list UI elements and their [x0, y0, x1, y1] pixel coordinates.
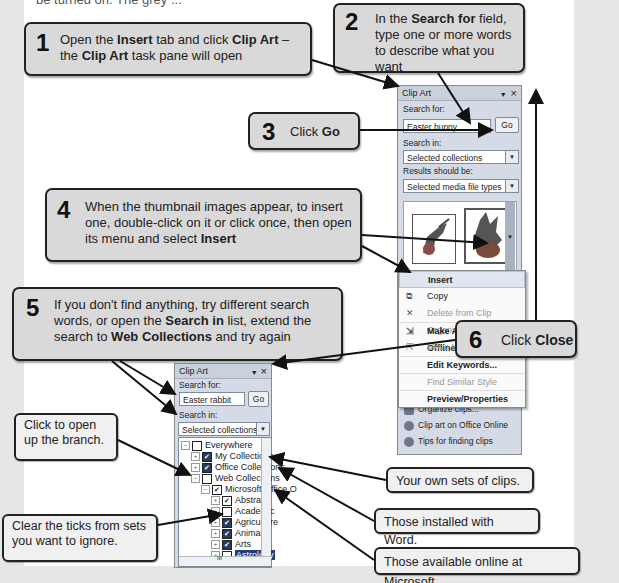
pane-menu-icon[interactable]: ▼	[500, 91, 507, 98]
checkbox[interactable]	[222, 540, 232, 550]
tree-horizontal-scrollbar[interactable]: III	[179, 556, 271, 566]
step-text: Click Go	[290, 124, 360, 140]
checkbox[interactable]	[192, 441, 202, 451]
tree-item-everywhere[interactable]: −Everywhere	[181, 440, 253, 451]
chevron-down-icon[interactable]: ▼	[505, 180, 518, 192]
collapse-icon[interactable]: −	[201, 485, 210, 494]
clip-art-pane-search-in: Clip Art ▼× Search for: Easter rabbit Go…	[174, 363, 272, 568]
go-button[interactable]: Go	[248, 391, 269, 407]
collapse-icon[interactable]: −	[191, 474, 200, 483]
menu-item-preview[interactable]: Preview/Properties	[399, 390, 525, 407]
expand-icon[interactable]: +	[211, 529, 220, 538]
note-online: Those available online at Microsoft.	[374, 547, 580, 575]
tree-vertical-scrollbar[interactable]	[261, 438, 271, 556]
step-4-callout: 4 When the thumbnail images appear, to i…	[45, 188, 362, 262]
offline-icon: ⇲	[406, 323, 414, 340]
search-input[interactable]: Easter bunny	[403, 119, 491, 133]
step-text: If you don't find anything, try differen…	[54, 297, 339, 345]
delete-icon: ✕	[406, 305, 414, 322]
chevron-down-icon[interactable]: ▼	[505, 151, 518, 163]
search-in-label: Search in:	[179, 410, 217, 420]
checkbox[interactable]	[212, 485, 222, 495]
clip-art-online-link[interactable]: Clip art on Office Online	[404, 420, 508, 431]
expand-icon[interactable]: +	[191, 452, 200, 461]
step-text: In the Search for field, type one or mor…	[375, 11, 525, 75]
results-label: Results should be:	[403, 166, 473, 176]
tree-item-arts[interactable]: +Arts	[211, 539, 251, 550]
expand-icon[interactable]: +	[211, 540, 220, 549]
results-select[interactable]: Selected media file types▼	[403, 179, 519, 193]
expand-icon[interactable]: +	[211, 496, 220, 505]
expand-icon[interactable]: +	[191, 463, 200, 472]
expand-icon[interactable]: +	[211, 518, 220, 527]
checkbox[interactable]	[222, 529, 232, 539]
note-open-branch: Click to open up the branch.	[14, 413, 118, 461]
search-in-select[interactable]: Selected collections▼	[178, 422, 270, 436]
checkbox[interactable]	[222, 496, 232, 506]
step-text: Open the Insert tab and click Clip Art –…	[60, 32, 300, 64]
thumbnail-bunny-1[interactable]	[412, 214, 456, 264]
expand-icon[interactable]: +	[211, 507, 220, 516]
collections-tree: −Everywhere +My Collections +Office Coll…	[178, 437, 272, 567]
search-input[interactable]: Easter rabbit	[179, 392, 245, 406]
step-1-callout: 1 Open the Insert tab and click Clip Art…	[24, 22, 312, 76]
step-number: 6	[469, 328, 482, 352]
close-icon[interactable]: ×	[261, 365, 267, 377]
search-for-label: Search for:	[179, 380, 221, 390]
note-own-sets: Your own sets of clips.	[386, 467, 534, 493]
menu-item-insert[interactable]: Insert	[399, 271, 525, 288]
tree-item-microsoft-office-online[interactable]: −Microsoft Office O	[201, 484, 297, 495]
note-clear-ticks: Clear the ticks from sets you want to ig…	[2, 514, 158, 562]
step-text: Click Close	[501, 332, 576, 348]
step-5-callout: 5 If you don't find anything, try differ…	[12, 287, 343, 361]
pane-menu-icon[interactable]: ▼	[251, 369, 258, 376]
step-number: 3	[262, 120, 275, 144]
checkbox[interactable]	[202, 452, 212, 462]
step-number: 5	[26, 296, 39, 320]
checkbox[interactable]	[222, 507, 232, 517]
bunny-clipart-icon	[413, 215, 455, 263]
tree-item-animals[interactable]: +Animals	[211, 528, 267, 539]
checkbox[interactable]	[222, 518, 232, 528]
collapse-icon[interactable]: −	[181, 441, 190, 450]
menu-item-find-similar[interactable]: Find Similar Style	[399, 373, 525, 390]
search-in-select[interactable]: Selected collections▼	[403, 150, 519, 164]
step-number: 1	[36, 31, 49, 55]
step-6-callout: 6 Click Close	[455, 320, 577, 358]
step-number: 2	[345, 10, 358, 34]
menu-item-edit-keywords[interactable]: Edit Keywords...	[399, 356, 525, 373]
thumbnail-menu-button[interactable]: ▼	[505, 202, 515, 277]
step-number: 4	[57, 198, 70, 222]
copy-icon: ⧉	[406, 288, 412, 305]
cut-off-intro-text: be turned on. The grey ...	[36, 0, 182, 7]
search-in-label: Search in:	[403, 138, 441, 148]
step-3-callout: 3 Click Go	[248, 112, 360, 150]
globe-icon	[404, 421, 414, 431]
tree-item-abstract[interactable]: +Abstract	[211, 495, 268, 506]
checkbox[interactable]	[202, 474, 212, 484]
close-icon[interactable]: ×	[511, 87, 517, 99]
menu-item-copy[interactable]: ⧉Copy	[399, 288, 525, 305]
step-text: When the thumbnail images appear, to ins…	[85, 199, 357, 247]
bunny-clipart-icon	[466, 210, 510, 262]
help-icon	[404, 437, 414, 447]
tips-link[interactable]: Tips for finding clips	[404, 436, 493, 447]
checkbox[interactable]	[202, 463, 212, 473]
note-installed: Those installed with Word.	[374, 508, 540, 534]
go-button[interactable]: Go	[495, 117, 519, 133]
step-2-callout: 2 In the Search for field, type one or m…	[333, 3, 525, 73]
search-for-label: Search for:	[403, 104, 445, 114]
chevron-down-icon[interactable]: ▼	[256, 423, 269, 435]
move-icon: ⇱	[406, 339, 414, 356]
